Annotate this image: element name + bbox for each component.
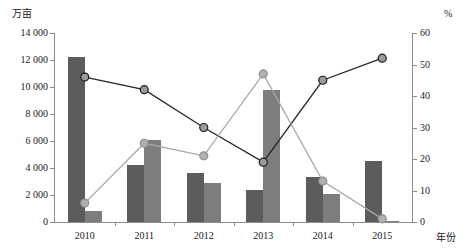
y-axis-right-tick xyxy=(413,222,417,223)
y-axis-left-tick-label: 10 000 xyxy=(21,82,49,92)
y-axis-right-tick xyxy=(413,96,417,97)
marker-line-series-dark-2012 xyxy=(200,124,208,132)
y-axis-left-tick-label: 12 000 xyxy=(21,55,49,65)
y-axis-right-tick-label: 10 xyxy=(420,186,430,196)
y-axis-right-tick-label: 20 xyxy=(420,154,430,164)
marker-line-series-dark-2011 xyxy=(140,86,148,94)
y-axis-right-tick xyxy=(413,191,417,192)
line-path-line-series-dark xyxy=(85,58,383,162)
y-axis-left-tick xyxy=(50,222,54,223)
y-axis-left-unit-label: 万亩 xyxy=(12,8,32,19)
y-axis-left-tick xyxy=(50,141,54,142)
marker-line-series-dark-2013 xyxy=(259,158,267,166)
x-axis-tick xyxy=(234,222,235,226)
x-axis-tick-label: 2015 xyxy=(352,230,412,241)
marker-line-series-light-2010 xyxy=(81,199,89,207)
y-axis-right-tick xyxy=(413,128,417,129)
y-axis-right-tick-label: 40 xyxy=(420,91,430,101)
x-axis-tick xyxy=(353,222,354,226)
marker-line-series-dark-2015 xyxy=(378,54,386,62)
x-axis-tick xyxy=(293,222,294,226)
y-axis-left-tick xyxy=(50,60,54,61)
lines-layer xyxy=(55,33,412,222)
y-axis-left-tick xyxy=(50,87,54,88)
x-axis-tick xyxy=(115,222,116,226)
y-axis-left-tick xyxy=(50,195,54,196)
y-axis-right-tick-label: 0 xyxy=(420,217,425,227)
x-axis-tick-label: 2013 xyxy=(233,230,293,241)
marker-line-series-dark-2010 xyxy=(81,73,89,81)
y-axis-right-unit-label: % xyxy=(444,8,452,19)
y-axis-left-tick-label: 2 000 xyxy=(26,190,49,200)
y-axis-right-tick-label: 30 xyxy=(420,123,430,133)
y-axis-left-tick-label: 14 000 xyxy=(21,28,49,38)
chart-figure: 万亩 % 年份 02 0004 0006 0008 00010 00012 00… xyxy=(0,0,467,251)
marker-line-series-dark-2014 xyxy=(319,76,327,84)
plot-area xyxy=(55,33,412,222)
y-axis-right-tick xyxy=(413,159,417,160)
y-axis-right-tick xyxy=(413,65,417,66)
y-axis-left-tick xyxy=(50,33,54,34)
y-axis-left-tick-label: 0 xyxy=(43,217,48,227)
line-path-line-series-light xyxy=(85,74,383,219)
y-axis-left-tick-label: 4 000 xyxy=(26,163,49,173)
marker-line-series-light-2013 xyxy=(259,70,267,78)
x-axis-tick-label: 2010 xyxy=(55,230,115,241)
y-axis-left-tick-label: 8 000 xyxy=(26,109,49,119)
x-axis-title: 年份 xyxy=(436,232,456,243)
y-axis-right-tick-label: 50 xyxy=(420,60,430,70)
x-axis-tick xyxy=(174,222,175,226)
y-axis-left-tick xyxy=(50,114,54,115)
y-axis-right-tick-label: 60 xyxy=(420,28,430,38)
marker-line-series-light-2015 xyxy=(378,215,386,223)
y-axis-left-tick xyxy=(50,168,54,169)
marker-line-series-light-2011 xyxy=(140,139,148,147)
marker-line-series-light-2014 xyxy=(319,177,327,185)
y-axis-left-tick-label: 6 000 xyxy=(26,136,49,146)
x-axis-tick-label: 2014 xyxy=(293,230,353,241)
y-axis-right-tick xyxy=(413,33,417,34)
x-axis-tick-label: 2012 xyxy=(174,230,234,241)
x-axis-tick-label: 2011 xyxy=(114,230,174,241)
marker-line-series-light-2012 xyxy=(200,152,208,160)
